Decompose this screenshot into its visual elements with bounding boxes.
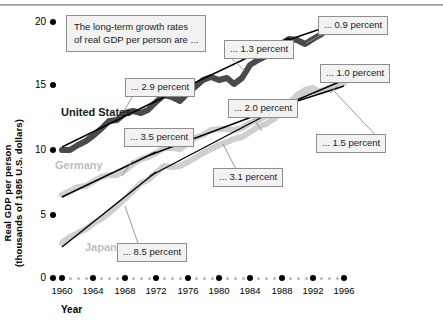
callout-de-late: ... 1.0 percent bbox=[320, 64, 390, 83]
callout-jp-early: ... 8.5 percent bbox=[117, 243, 187, 262]
y-tick-label-0: 0 bbox=[24, 272, 46, 283]
x-minor-dot bbox=[100, 277, 103, 280]
x-minor-dot bbox=[305, 277, 308, 280]
x-minor-dot bbox=[242, 277, 245, 280]
x-tick-dot-1988 bbox=[279, 275, 285, 281]
y-tick-dot-15 bbox=[50, 82, 56, 88]
x-minor-dot bbox=[211, 277, 214, 280]
x-minor-dot bbox=[108, 277, 111, 280]
y-tick-dot-0 bbox=[50, 275, 56, 281]
callout-us-late: ... 0.9 percent bbox=[318, 16, 388, 35]
callout-de-mid: ... 2.0 percent bbox=[228, 99, 298, 118]
x-minor-dot bbox=[132, 277, 135, 280]
x-axis-title: Year bbox=[61, 304, 82, 315]
x-minor-dot bbox=[257, 277, 260, 280]
caption-line-2: of real GDP per person are ... bbox=[74, 33, 198, 46]
leader-jp-late bbox=[334, 91, 380, 140]
caption-line-1: The long-term growth rates bbox=[74, 20, 198, 33]
x-tick-dot-1964 bbox=[90, 275, 96, 281]
x-minor-dot bbox=[328, 277, 331, 280]
series-label-united-states: United States bbox=[61, 106, 131, 118]
series-label-japan: Japan bbox=[85, 241, 117, 253]
x-minor-dot bbox=[289, 277, 292, 280]
x-tick-dot-1992 bbox=[310, 275, 316, 281]
x-minor-dot bbox=[320, 277, 323, 280]
x-minor-dot bbox=[85, 277, 88, 280]
x-minor-dot bbox=[140, 277, 143, 280]
x-tick-dot-1968 bbox=[122, 275, 128, 281]
x-minor-dot bbox=[234, 277, 237, 280]
x-minor-dot bbox=[77, 277, 80, 280]
callout-us-early: ... 2.9 percent bbox=[125, 78, 195, 97]
x-minor-dot bbox=[179, 277, 182, 280]
x-tick-dot-1972 bbox=[153, 275, 159, 281]
series-label-germany: Germany bbox=[55, 159, 103, 171]
callout-de-early: ... 3.5 percent bbox=[124, 128, 194, 147]
x-tick-dot-1980 bbox=[216, 275, 222, 281]
y-tick-label-20: 20 bbox=[24, 16, 46, 27]
x-tick-dot-1984 bbox=[247, 275, 253, 281]
x-tick-dot-1976 bbox=[185, 275, 191, 281]
x-tick-label-1996: 1996 bbox=[324, 285, 364, 296]
y-tick-label-5: 5 bbox=[24, 209, 46, 220]
y-axis-title-text: Real GDP per person(thousands of 1985 U.… bbox=[2, 119, 24, 267]
y-tick-label-15: 15 bbox=[24, 79, 46, 90]
y-tick-dot-20 bbox=[50, 19, 56, 25]
callout-jp-late: ... 1.5 percent bbox=[316, 134, 386, 153]
x-minor-dot bbox=[265, 277, 268, 280]
callout-us-mid: ... 1.3 percent bbox=[224, 40, 294, 59]
x-minor-dot bbox=[203, 277, 206, 280]
y-axis-title: Real GDP per person(thousands of 1985 U.… bbox=[2, 108, 24, 278]
caption-box: The long-term growth rates of real GDP p… bbox=[66, 15, 206, 52]
y-tick-dot-10 bbox=[50, 147, 56, 153]
leader-us-mid bbox=[230, 57, 245, 71]
y-tick-label-10: 10 bbox=[24, 144, 46, 155]
gdp-per-person-chart: Real GDP per person(thousands of 1985 U.… bbox=[0, 0, 443, 326]
y-tick-dot-5 bbox=[50, 212, 56, 218]
x-minor-dot bbox=[69, 277, 72, 280]
japan-trendline-early bbox=[62, 172, 156, 247]
x-minor-dot bbox=[195, 277, 198, 280]
x-minor-dot bbox=[171, 277, 174, 280]
x-minor-dot bbox=[163, 277, 166, 280]
x-minor-dot bbox=[148, 277, 151, 280]
x-minor-dot bbox=[336, 277, 339, 280]
callout-jp-mid: ... 3.1 percent bbox=[213, 168, 283, 187]
x-tick-dot-1960 bbox=[59, 275, 65, 281]
x-minor-dot bbox=[226, 277, 229, 280]
x-minor-dot bbox=[297, 277, 300, 280]
x-tick-dot-1996 bbox=[341, 275, 347, 281]
x-minor-dot bbox=[273, 277, 276, 280]
x-minor-dot bbox=[116, 277, 119, 280]
